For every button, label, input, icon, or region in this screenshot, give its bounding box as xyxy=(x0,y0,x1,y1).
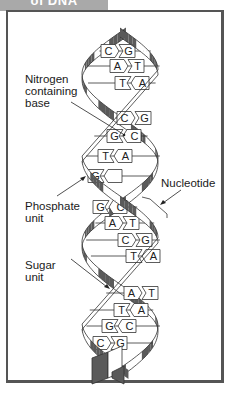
base-right-letter: A xyxy=(150,250,158,262)
base-left-letter: G xyxy=(105,320,114,332)
svg-text:unit: unit xyxy=(25,212,44,224)
base-pair: TA xyxy=(115,77,149,90)
base-pair: CG xyxy=(101,45,135,58)
base-right-letter: C xyxy=(126,320,134,332)
base-left-letter: T xyxy=(130,250,137,262)
svg-text:Sugar: Sugar xyxy=(25,259,56,271)
base-right-letter: T xyxy=(148,287,155,299)
base-right-letter: T xyxy=(129,217,136,229)
base-left-letter: A xyxy=(128,287,136,299)
base-left-letter: C xyxy=(121,112,129,124)
svg-text:Nitrogen: Nitrogen xyxy=(25,73,68,85)
base-pair: TA xyxy=(98,150,132,163)
nucleotide-pointer xyxy=(163,190,181,203)
base-right-letter: A xyxy=(138,304,146,316)
label-line: Nitrogen xyxy=(25,73,68,85)
label-line: Phosphate xyxy=(25,200,80,212)
base-left-letter: T xyxy=(118,304,125,316)
base-right-letter: C xyxy=(131,130,139,142)
base-right-letter: T xyxy=(134,60,141,72)
base-left-letter: A xyxy=(114,60,122,72)
label-nucleotide: Nucleotide xyxy=(142,177,215,218)
nucleotide-bracket xyxy=(142,197,167,218)
base-left-letter: A xyxy=(109,217,117,229)
base-pair: AT xyxy=(105,217,139,230)
label-nitrogen-base: Nitrogen containing base xyxy=(25,73,125,136)
svg-text:unit: unit xyxy=(25,271,44,283)
dna-diagram: CGATTACGGCTAGGCATCGTAATTAGCCG Nitrogen c… xyxy=(0,0,232,396)
base-right-letter: G xyxy=(140,112,149,124)
base-pair: GC xyxy=(102,320,136,333)
svg-text:Phosphate: Phosphate xyxy=(25,200,80,212)
nitrogen-base-pointer-dot xyxy=(123,134,126,137)
base-pair: CG xyxy=(118,234,152,247)
base-left-letter: G xyxy=(110,130,119,142)
base-pair: AT xyxy=(124,287,158,300)
svg-text:base: base xyxy=(25,97,50,109)
base-left-letter: C xyxy=(122,234,130,246)
label-line: Nucleotide xyxy=(161,177,215,189)
base-left-letter: T xyxy=(102,150,109,162)
base-pair: AT xyxy=(110,60,144,73)
base-pair: CG xyxy=(117,112,151,125)
label-line: Sugar xyxy=(25,259,56,271)
label-line: containing xyxy=(25,85,77,97)
phosphate-pointer xyxy=(57,178,84,196)
label-phosphate: Phosphate unit xyxy=(25,176,86,224)
base-right-letter: G xyxy=(124,45,133,57)
svg-text:Nucleotide: Nucleotide xyxy=(161,177,215,189)
nucleotide-arrowhead xyxy=(160,200,166,205)
base-pair: TA xyxy=(114,304,148,317)
label-line: unit xyxy=(25,271,44,283)
label-line: unit xyxy=(25,212,44,224)
strand-tail xyxy=(92,352,108,384)
base-right-box xyxy=(104,170,122,183)
base-left-letter: T xyxy=(119,77,126,89)
svg-text:containing: containing xyxy=(25,85,77,97)
base-left-letter: C xyxy=(105,45,113,57)
label-line: base xyxy=(25,97,50,109)
base-left-letter: G xyxy=(96,201,105,213)
base-right-letter: G xyxy=(141,234,150,246)
base-right-letter: A xyxy=(122,150,130,162)
